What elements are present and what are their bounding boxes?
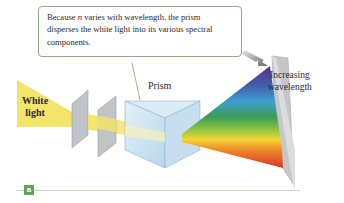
explanation-callout: Because n varies with wavelength, the pr…: [38, 6, 242, 57]
increasing-wavelength-label: Increasing wavelength: [268, 70, 312, 93]
divider-left: [16, 190, 24, 191]
dispersion-figure: Because n varies with wavelength, the pr…: [0, 0, 344, 203]
divider: [34, 190, 300, 191]
callout-pointer: [128, 56, 140, 100]
panel-tag: a: [24, 185, 34, 195]
increasing-arrow-icon: [242, 50, 268, 66]
white-light-label: White light: [22, 95, 48, 119]
prism-label: Prism: [148, 80, 171, 91]
slit-1: [72, 90, 88, 148]
callout-text-before: Because: [47, 12, 78, 22]
